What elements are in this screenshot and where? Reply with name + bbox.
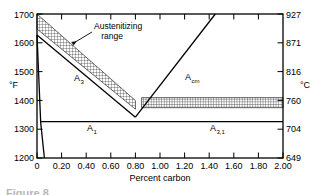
x-tick-label: 1.20 [176,161,194,171]
curve-label-a1: A 1 [87,123,98,135]
curve-label-acm-text: A [185,72,191,82]
x-tick-label: 0.20 [53,161,71,171]
y-left-tick-label: 1700 [14,10,34,20]
curve-alpha-boundary [37,35,44,158]
annotation-austenitizing-range: Austenitizing range [72,21,142,44]
x-axis-tick-labels: 0 0.20 0.40 0.60 0.80 1.00 1.20 1.40 1.6… [34,161,291,171]
figure-caption: Figure 8 [6,187,49,195]
x-tick-label: 1.40 [200,161,218,171]
x-tick-label: 0 [34,161,39,171]
curve-label-a3-subscript: 3 [81,79,85,85]
curve-label-a31: A 3,1 [210,123,226,135]
y-left-tick-label: 1600 [14,38,34,48]
x-axis-ticks-top [62,14,259,20]
curve-label-a31-subscript: 3,1 [217,129,226,135]
y-axis-right-tick-labels: 649 704 760 816 871 927 [286,10,301,164]
annotation-line-1: Austenitizing [94,21,142,31]
curve-label-a1-subscript: 1 [94,129,98,135]
band-austenitizing-hypereutectoid [142,98,283,108]
annotation-arrow-icon [72,32,92,44]
curve-label-a1-text: A [87,123,93,133]
y-left-tick-label: 1200 [14,153,34,163]
x-tick-label: 1.80 [250,161,268,171]
curve-a3 [37,35,135,117]
figure-austenitizing-temperature-chart: 1200 1300 1400 1500 1600 1700 649 704 76… [0,0,328,195]
annotation-line-2: range [101,31,123,41]
y-left-tick-label: 1500 [14,67,34,77]
y-axis-ticks-right [278,14,284,158]
y-right-tick-label: 816 [286,67,301,77]
curve-label-acm: A cm [185,72,200,84]
y-right-tick-label: 704 [286,124,301,134]
curve-label-a31-text: A [210,123,216,133]
y-axis-right-title: °C [300,80,311,90]
y-right-tick-label: 760 [286,96,301,106]
curve-label-acm-subscript: cm [192,78,200,84]
x-tick-label: 0.80 [127,161,145,171]
curve-label-a3: A 3 [74,73,85,85]
x-tick-label: 1.00 [151,161,169,171]
x-axis-ticks-bottom [37,153,283,159]
x-tick-label: 1.60 [225,161,243,171]
x-tick-label: 2.00 [274,161,292,171]
curve-label-a3-text: A [74,73,80,83]
chart-canvas: 1200 1300 1400 1500 1600 1700 649 704 76… [0,0,328,195]
y-right-tick-label: 871 [286,38,301,48]
x-tick-label: 0.40 [77,161,95,171]
y-left-tick-label: 1400 [14,96,34,106]
y-axis-left-title: °F [9,80,19,90]
x-axis-title-line1: Percent carbon [129,173,190,183]
x-tick-label: 0.60 [102,161,120,171]
y-right-tick-label: 927 [286,10,301,20]
y-left-tick-label: 1300 [14,124,34,134]
